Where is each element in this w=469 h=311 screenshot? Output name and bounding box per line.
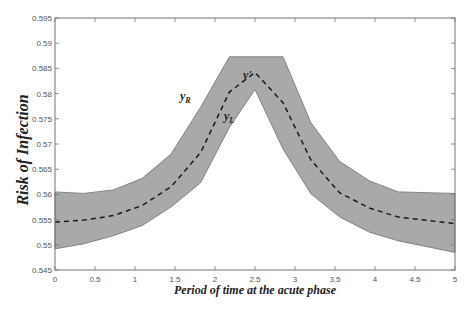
y-tick-label: 0.57: [36, 140, 52, 149]
y-tick-label: 0.59: [36, 39, 52, 48]
y-tick-label: 0.585: [32, 64, 53, 73]
y-tick-label: 0.545: [32, 266, 53, 275]
x-tick-label: 5: [453, 275, 458, 284]
x-tick-label: 4: [373, 275, 378, 284]
y-tick-label: 0.565: [32, 165, 53, 174]
band-area: [55, 57, 455, 253]
x-tick-label: 0: [53, 275, 58, 284]
confidence-band: [55, 57, 455, 253]
y-tick-label: 0.595: [32, 14, 53, 23]
x-axis-label: Period of time at the acute phase: [174, 283, 337, 297]
y-tick-label: 0.555: [32, 216, 53, 225]
y-tick-label: 0.575: [32, 115, 53, 124]
x-tick-label: 0.5: [89, 275, 101, 284]
y-tick-label: 0.55: [36, 241, 52, 250]
x-tick-label: 4.5: [409, 275, 421, 284]
y-tick-label: 0.58: [36, 90, 52, 99]
risk-of-infection-chart: 00.511.522.533.544.55 0.5450.550.5550.56…: [0, 0, 469, 311]
x-tick-label: 1: [133, 275, 138, 284]
y-tick-label: 0.56: [36, 190, 52, 199]
annotation-y-prime: y': [241, 68, 252, 82]
y-axis-label: Risk of Infection: [14, 94, 32, 206]
annotation-y-r: yR: [178, 89, 191, 105]
